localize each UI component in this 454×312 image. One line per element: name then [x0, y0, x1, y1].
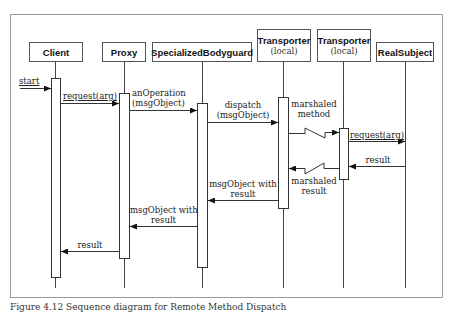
- label-line: marshaled: [290, 176, 338, 186]
- label-line: result: [130, 215, 197, 225]
- message-label-result-realsubject: result: [352, 155, 404, 165]
- participant-name: Transporter: [258, 35, 311, 46]
- message-label-msgobject-bodyguard-proxy: msgObject with result: [130, 205, 197, 225]
- participant-name: SpecializedBodyguard: [151, 47, 253, 58]
- sequence-diagram: Client Proxy SpecializedBodyguard Transp…: [0, 0, 454, 312]
- participant-name: RealSubject: [378, 47, 432, 58]
- participant-client: Client: [29, 42, 83, 62]
- participant-bodyguard: SpecializedBodyguard: [152, 42, 252, 62]
- label-line: (msgObject): [206, 110, 280, 120]
- message-label-request-t2-realsubject: request(arg): [349, 130, 405, 140]
- activation-client: [52, 79, 61, 278]
- message-label-marshaled-method: marshaled method: [290, 99, 338, 119]
- activation-transporter2: [340, 129, 349, 180]
- message-label-marshaled-result: marshaled result: [290, 176, 338, 196]
- label-line: msgObject with: [130, 205, 197, 215]
- participant-realsubject: RealSubject: [376, 42, 434, 62]
- message-label-msgobject-t1-bodyguard: msgObject with result: [208, 179, 278, 199]
- message-label-anoperation: anOperation (msgObject): [132, 88, 186, 108]
- participant-subtitle: (local): [330, 46, 357, 57]
- participant-name: Client: [43, 47, 69, 58]
- message-label-start: start: [19, 76, 39, 86]
- label-line: method: [290, 109, 338, 119]
- participant-proxy: Proxy: [102, 42, 146, 62]
- label-line: (msgObject): [132, 98, 186, 108]
- participant-transporter-2: Transporter (local): [317, 29, 371, 62]
- activation-transporter1: [279, 98, 289, 209]
- label-line: marshaled: [290, 99, 338, 109]
- label-line: result: [208, 189, 278, 199]
- participant-subtitle: (local): [270, 46, 297, 57]
- label-line: result: [290, 186, 338, 196]
- figure-caption: Figure 4.12 Sequence diagram for Remote …: [10, 302, 286, 312]
- message-label-result-proxy-client: result: [62, 240, 118, 250]
- participant-transporter-1: Transporter (local): [257, 29, 311, 62]
- participant-name: Transporter: [318, 35, 371, 46]
- message-label-dispatch: dispatch (msgObject): [206, 100, 280, 120]
- activation-bodyguard: [198, 104, 208, 268]
- activation-proxy: [120, 94, 130, 259]
- label-line: msgObject with: [208, 179, 278, 189]
- message-label-request-client-proxy: request(arg): [63, 91, 117, 101]
- label-line: anOperation: [132, 88, 186, 98]
- label-line: dispatch: [206, 100, 280, 110]
- participant-name: Proxy: [111, 47, 137, 58]
